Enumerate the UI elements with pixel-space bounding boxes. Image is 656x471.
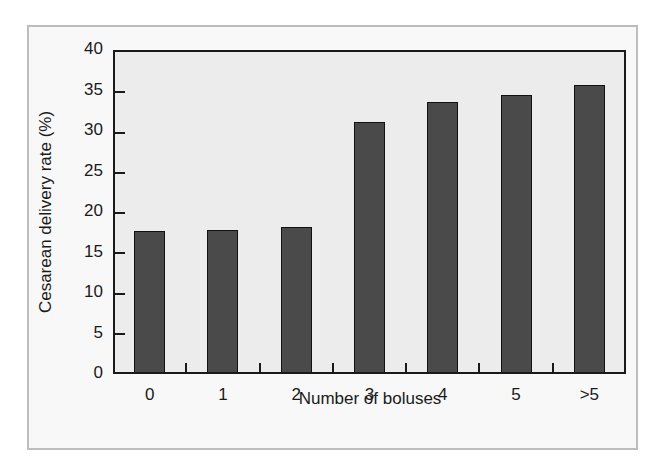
bar-4 [427,102,458,372]
x-tick-mark [552,363,554,372]
y-tick-mark [115,212,125,214]
y-tick-label: 35 [63,81,103,99]
y-tick-label: 10 [63,283,103,301]
y-tick-label: 20 [63,202,103,220]
x-tick-mark [332,363,334,372]
y-tick-mark [115,293,125,295]
y-tick-mark [115,252,125,254]
x-tick-label: >5 [569,386,609,404]
y-tick-mark [115,132,125,134]
x-tick-label: 1 [203,386,243,404]
x-tick-mark [259,363,261,372]
x-tick-label: 5 [496,386,536,404]
y-axis-title: Cesarean delivery rate (%) [36,111,56,313]
y-tick-mark [115,91,125,93]
y-tick-label: 15 [63,243,103,261]
bar-2 [281,227,312,372]
y-tick-mark [115,172,125,174]
bar-5 [501,95,532,372]
x-tick-label: 3 [350,386,390,404]
bar-0 [134,231,165,372]
bar->5 [574,85,605,372]
bar-1 [207,230,238,372]
x-tick-label: 0 [130,386,170,404]
x-tick-mark [405,363,407,372]
bar-3 [354,122,385,372]
y-tick-mark [115,333,125,335]
x-tick-mark [185,363,187,372]
x-tick-mark [478,363,480,372]
y-tick-label: 0 [63,364,103,382]
plot-area [113,50,626,374]
y-tick-label: 25 [63,162,103,180]
x-tick-label: 4 [423,386,463,404]
x-tick-label: 2 [276,386,316,404]
y-tick-label: 40 [63,40,103,58]
y-tick-label: 5 [63,324,103,342]
y-tick-label: 30 [63,121,103,139]
